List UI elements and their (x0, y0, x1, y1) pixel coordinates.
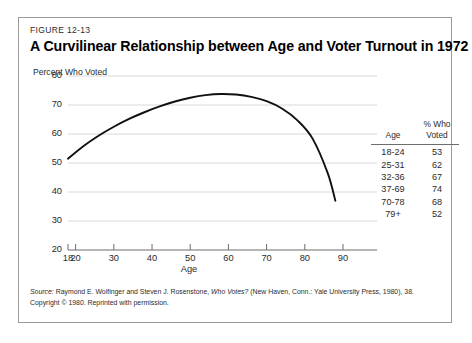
x-axis-tick-label: 80 (293, 253, 317, 263)
y-axis-tick-label: 80 (40, 70, 62, 80)
table-cell-percent: 74 (415, 184, 459, 196)
y-axis-tick-label: 60 (40, 128, 62, 138)
source-work-title: Who Votes? (211, 288, 248, 295)
table-row: 37-6974 (371, 184, 459, 196)
x-axis-tick-marks (68, 244, 343, 250)
turnout-curve (68, 94, 335, 201)
table-row: 25-3162 (371, 159, 459, 171)
figure-title: A Curvilinear Relationship between Age a… (30, 38, 442, 54)
table-cell-age: 79+ (371, 209, 415, 221)
y-axis-tick-label: 40 (40, 186, 62, 196)
x-axis-tick-label: 90 (331, 253, 355, 263)
y-axis-tick-label: 30 (40, 215, 62, 225)
table-cell-percent: 68 (415, 196, 459, 208)
x-axis-tick-label: 40 (140, 253, 164, 263)
gridlines (68, 76, 377, 221)
table-cell-percent: 62 (415, 159, 459, 171)
table-row: 70-7868 (371, 196, 459, 208)
table-cell-age: 32-36 (371, 172, 415, 184)
y-axis-tick-label: 50 (40, 157, 62, 167)
table-body: 18-245325-316232-366737-697470-786879+52 (371, 144, 459, 221)
chart-plot-area: Percent Who Voted 20304050607080 1820304… (19, 64, 453, 279)
x-axis-tick-label: 70 (255, 253, 279, 263)
table-cell-age: 70-78 (371, 196, 415, 208)
table-cell-age: 18-24 (371, 144, 415, 159)
x-axis-tick-label: 60 (216, 253, 240, 263)
y-axis-tick-label: 70 (40, 99, 62, 109)
x-axis-label: Age (19, 264, 359, 274)
table-cell-percent: 52 (415, 209, 459, 221)
table-row: 18-2453 (371, 144, 459, 159)
figure-number: FIGURE 12-13 (30, 25, 90, 35)
table-cell-age: 25-31 (371, 159, 415, 171)
turnout-data-table: % Who Age Voted 18-245325-316232-366737-… (371, 120, 463, 221)
table-cell-percent: 67 (415, 172, 459, 184)
table-header-percent-line2: Voted (415, 131, 459, 144)
figure-container: FIGURE 12-13 A Curvilinear Relationship … (18, 17, 452, 323)
source-authors: Raymond E. Wolfinger and Steven J. Rosen… (54, 288, 211, 295)
table-cell-percent: 53 (415, 144, 459, 159)
source-label: Source: (30, 288, 54, 295)
x-axis-tick-label: 30 (102, 253, 126, 263)
table-row: 32-3667 (371, 172, 459, 184)
source-note: Source: Raymond E. Wolfinger and Steven … (30, 287, 442, 309)
table-row: 79+52 (371, 209, 459, 221)
x-axis-tick-label: 50 (178, 253, 202, 263)
table-cell-age: 37-69 (371, 184, 415, 196)
x-axis-tick-label: 20 (64, 253, 88, 263)
source-publication: (New Haven, Conn.: Yale University Press… (248, 288, 414, 295)
table-header-age: Age (371, 131, 415, 144)
source-copyright: Copyright © 1980. Reprinted with permiss… (30, 299, 169, 306)
